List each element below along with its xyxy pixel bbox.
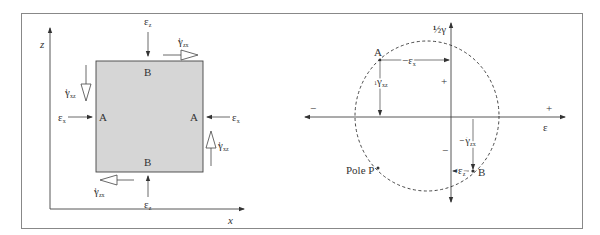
gamma-axis-label: 1½γ <box>433 23 446 35</box>
shear-zx-bottom-label: 1γzx <box>93 185 105 198</box>
eps-z-top-label: εz <box>144 15 152 28</box>
eps-x-left-label: εx <box>58 111 66 124</box>
epsilon-plus-sign: + <box>546 102 552 114</box>
shear-xz-right-arrow <box>206 131 216 166</box>
pole-P <box>377 167 380 170</box>
face-A-left: A <box>99 111 107 123</box>
shear-xz-left-label: 1γxz <box>64 86 76 99</box>
gamma-plus-sign: + <box>441 75 447 87</box>
point-B <box>471 169 474 172</box>
face-A-right: A <box>190 111 198 123</box>
minus-eps-x-label: −εx <box>402 54 416 67</box>
face-B-bottom: B <box>144 156 151 168</box>
left-panel: z x B B A A εz εz εx εx 1γzx 1γzx <box>39 15 244 226</box>
shear-zx-top-label: 1γzx <box>177 35 189 48</box>
z-axis-label: z <box>39 38 45 50</box>
x-axis-label: x <box>227 214 233 226</box>
eps-z-label: εz <box>458 164 466 177</box>
epsilon-axis-label: ε <box>543 121 548 133</box>
shear-xz-left-arrow <box>81 65 91 101</box>
eps-x-right-label: εx <box>232 111 240 124</box>
face-B-top: B <box>144 66 151 78</box>
epsilon-minus-sign: − <box>310 102 316 114</box>
shear-zx-top-arrow <box>163 50 198 60</box>
half-gamma-xz-label: 1γxz <box>374 75 388 88</box>
gamma-minus-sign: − <box>442 144 448 156</box>
eps-z-bottom-label: εz <box>144 198 152 211</box>
pole-P-label: Pole P <box>346 164 374 176</box>
point-A-label: A <box>374 46 382 58</box>
right-panel: ε + − 1½γ + − A −εx 1γxz B −1γzx εz Pole… <box>305 23 565 202</box>
shear-zx-bottom-arrow <box>100 175 134 185</box>
point-A <box>378 58 381 61</box>
point-B-label: B <box>478 166 485 178</box>
shear-xz-right-label: 1γxz <box>217 139 229 152</box>
strain-diagram: z x B B A A εz εz εx εx 1γzx 1γzx <box>0 0 600 235</box>
